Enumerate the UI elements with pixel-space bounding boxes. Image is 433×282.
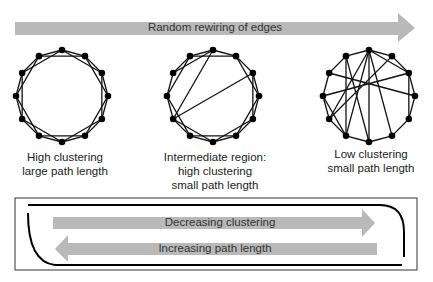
edge (213, 50, 236, 56)
node (366, 139, 373, 146)
edge (323, 96, 346, 136)
node (105, 93, 112, 100)
edge (190, 136, 213, 142)
edge (102, 73, 108, 96)
edge (329, 56, 346, 73)
edge (173, 119, 213, 142)
edge (369, 50, 409, 73)
node (326, 116, 333, 123)
edge (62, 119, 102, 142)
node (19, 70, 26, 77)
node (250, 116, 257, 123)
edge (62, 50, 102, 73)
edge (409, 96, 415, 119)
node (406, 70, 413, 77)
node (389, 133, 396, 140)
node (82, 133, 89, 140)
edge (167, 56, 190, 96)
node (36, 133, 43, 140)
decreasing-clustering-label: Decreasing clustering (120, 216, 320, 228)
edge (213, 119, 253, 142)
caption-random: Low clustering small path length (313, 147, 429, 175)
node (210, 47, 217, 54)
network-small-world (164, 47, 263, 146)
edge (369, 50, 392, 136)
edge (323, 73, 409, 96)
network-random (320, 47, 419, 146)
edge (346, 136, 369, 142)
edge (85, 56, 108, 96)
node (36, 53, 43, 60)
edge (253, 96, 259, 119)
edge (39, 136, 62, 142)
node (343, 133, 350, 140)
node (19, 116, 26, 123)
edge (16, 73, 22, 96)
edge (16, 96, 22, 119)
edge (253, 73, 259, 96)
node (99, 70, 106, 77)
edge (22, 50, 62, 73)
node (187, 53, 194, 60)
node (366, 47, 373, 54)
node (233, 133, 240, 140)
edge (236, 96, 259, 136)
edge (346, 50, 369, 136)
node (13, 93, 20, 100)
edge (323, 73, 329, 96)
edge (213, 136, 236, 142)
edge (16, 96, 39, 136)
rewiring-arrow-label: Random rewiring of edges (100, 21, 330, 33)
node (343, 53, 350, 60)
node (82, 53, 89, 60)
increasing-path-length-label: Increasing path length (110, 242, 320, 254)
edge (167, 96, 173, 119)
node (326, 70, 333, 77)
caption-regular: High clustering large path length (10, 150, 120, 178)
edge (62, 136, 85, 142)
edge (22, 119, 62, 142)
node (59, 47, 66, 54)
node (187, 133, 194, 140)
node (99, 116, 106, 123)
edge (85, 96, 108, 136)
edge (173, 73, 253, 119)
node (164, 93, 171, 100)
node (320, 93, 327, 100)
edge (369, 50, 392, 56)
node (59, 139, 66, 146)
node (406, 116, 413, 123)
edge (392, 119, 409, 136)
summary-box (15, 198, 417, 270)
diagram-canvas (0, 0, 433, 282)
edge (62, 50, 85, 56)
node (170, 70, 177, 77)
node (233, 53, 240, 60)
node (250, 70, 257, 77)
edge (323, 96, 329, 119)
edge (102, 96, 108, 119)
network-regular (13, 47, 112, 146)
node (256, 93, 263, 100)
node (170, 116, 177, 123)
edge (167, 73, 173, 96)
edge (16, 56, 39, 96)
node (210, 139, 217, 146)
edge (369, 136, 392, 142)
edge (39, 50, 62, 56)
edge (409, 73, 415, 96)
edge (173, 50, 213, 119)
caption-small-world: Intermediate region: high clustering sma… (160, 150, 270, 192)
node (412, 93, 419, 100)
node (389, 53, 396, 60)
